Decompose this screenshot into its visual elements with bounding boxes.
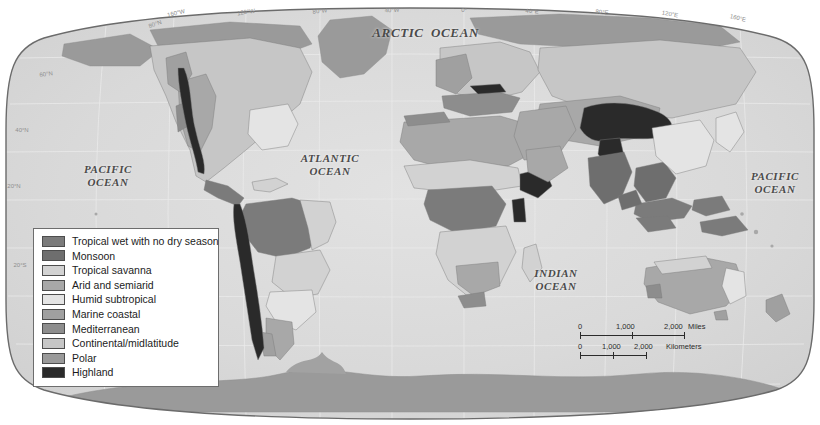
legend-label: Arid and semiarid bbox=[72, 280, 154, 291]
scale-tick bbox=[580, 332, 581, 339]
legend-swatch-tropical-savanna bbox=[42, 265, 65, 276]
legend-label: Humid subtropical bbox=[72, 294, 156, 305]
world-climate-map-figure: ARCTIC OCEAN PACIFIC OCEAN ATLANTIC OCEA… bbox=[0, 0, 820, 425]
legend-swatch-continental-midlatitude bbox=[42, 338, 65, 349]
legend-label: Highland bbox=[72, 367, 113, 378]
scale-tick-label: 0 bbox=[578, 322, 582, 331]
legend-swatch-arid-and-semiarid bbox=[42, 280, 65, 291]
legend-swatch-polar bbox=[42, 353, 65, 364]
legend-swatch-mediterranean bbox=[42, 323, 65, 334]
scale-tick-label: 1,000 bbox=[616, 322, 635, 331]
scale-tick bbox=[684, 332, 685, 339]
legend-item-monsoon: Monsoon bbox=[42, 249, 212, 264]
legend-item-mediterranean: Mediterranean bbox=[42, 322, 212, 337]
scale-unit-label: Miles bbox=[688, 322, 706, 331]
legend-label: Marine coastal bbox=[72, 309, 140, 320]
scale-tick-label: 0 bbox=[578, 342, 582, 351]
scale-miles-line bbox=[578, 331, 708, 339]
map-legend: Tropical wet with no dry season Monsoon … bbox=[33, 228, 219, 387]
scale-tick-label: 1,000 bbox=[602, 342, 621, 351]
legend-label: Mediterranean bbox=[72, 324, 140, 335]
scale-tick-label: 2,000 bbox=[664, 322, 683, 331]
legend-item-tropical-wet: Tropical wet with no dry season bbox=[42, 234, 212, 249]
map-scale-bars: 0 1,000 2,000 Miles 0 1,000 2,000 Kilome… bbox=[578, 322, 708, 359]
legend-swatch-highland bbox=[42, 367, 65, 378]
scale-bar-miles: 0 1,000 2,000 Miles bbox=[578, 322, 708, 341]
legend-label: Continental/midlatitude bbox=[72, 338, 179, 349]
legend-item-highland: Highland bbox=[42, 365, 212, 380]
legend-swatch-marine-coastal bbox=[42, 309, 65, 320]
scale-miles-numbers: 0 1,000 2,000 Miles bbox=[578, 322, 708, 331]
legend-swatch-humid-subtropical bbox=[42, 294, 65, 305]
legend-label: Tropical wet with no dry season bbox=[72, 236, 219, 247]
scale-unit-label: Kilometers bbox=[666, 342, 701, 351]
legend-item-marine-coastal: Marine coastal bbox=[42, 307, 212, 322]
scale-km-rule bbox=[578, 351, 708, 359]
scale-km-numbers: 0 1,000 2,000 Kilometers bbox=[578, 342, 708, 351]
scale-tick-label: 2,000 bbox=[634, 342, 653, 351]
scale-tick bbox=[632, 332, 633, 339]
legend-item-polar: Polar bbox=[42, 351, 212, 366]
legend-swatch-tropical-wet bbox=[42, 236, 65, 247]
legend-label: Tropical savanna bbox=[72, 265, 152, 276]
legend-label: Polar bbox=[72, 353, 97, 364]
legend-swatch-monsoon bbox=[42, 250, 65, 261]
legend-item-arid-and-semiarid: Arid and semiarid bbox=[42, 278, 212, 293]
legend-item-tropical-savanna: Tropical savanna bbox=[42, 263, 212, 278]
scale-tick bbox=[580, 352, 581, 359]
scale-tick bbox=[646, 352, 647, 359]
legend-item-continental-midlatitude: Continental/midlatitude bbox=[42, 336, 212, 351]
legend-item-humid-subtropical: Humid subtropical bbox=[42, 292, 212, 307]
scale-tick bbox=[613, 352, 614, 359]
legend-label: Monsoon bbox=[72, 251, 115, 262]
